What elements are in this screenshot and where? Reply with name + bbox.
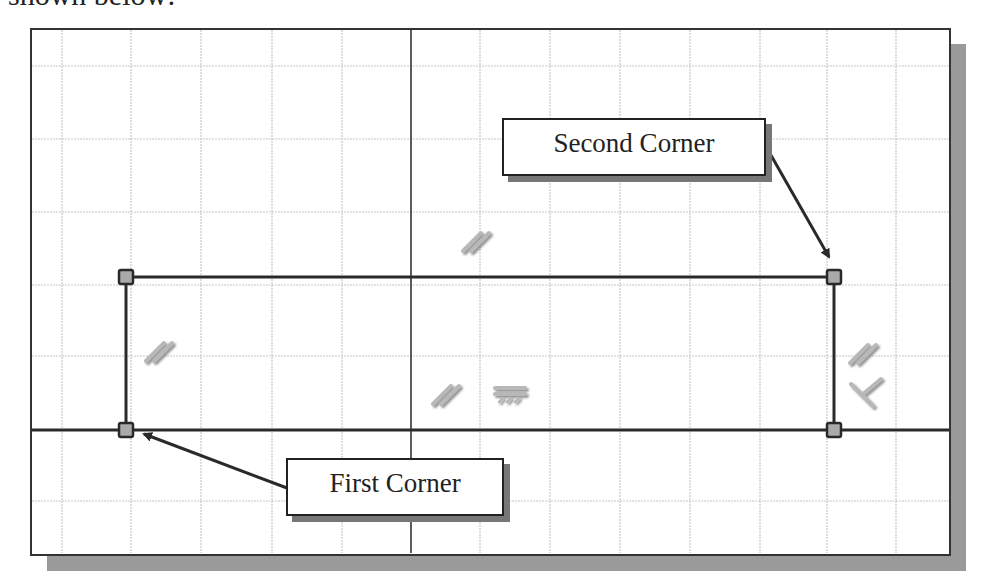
second-corner-label: Second Corner [553, 128, 714, 159]
second-corner-callout: Second Corner [502, 118, 766, 176]
parallel-constraint-icon[interactable] [433, 386, 459, 404]
parallel-constraint-icon[interactable] [146, 343, 172, 361]
bottom-right-point[interactable] [827, 423, 841, 437]
perpendicular-constraint-icon[interactable] [851, 379, 881, 406]
second-corner-arrow [768, 150, 829, 257]
horizontal-constraint-icon[interactable] [495, 388, 525, 402]
parallel-constraint-icon[interactable] [463, 233, 489, 251]
first-corner-label: First Corner [329, 468, 460, 499]
first-corner-point[interactable] [119, 423, 133, 437]
first-corner-callout: First Corner [286, 458, 504, 516]
leader-arrows [144, 150, 829, 488]
constraint-symbols [146, 233, 881, 406]
rectangle[interactable] [32, 277, 949, 430]
top-left-point[interactable] [119, 270, 133, 284]
second-corner-point[interactable] [827, 270, 841, 284]
first-corner-arrow [144, 434, 287, 488]
parallel-constraint-icon[interactable] [850, 345, 876, 363]
